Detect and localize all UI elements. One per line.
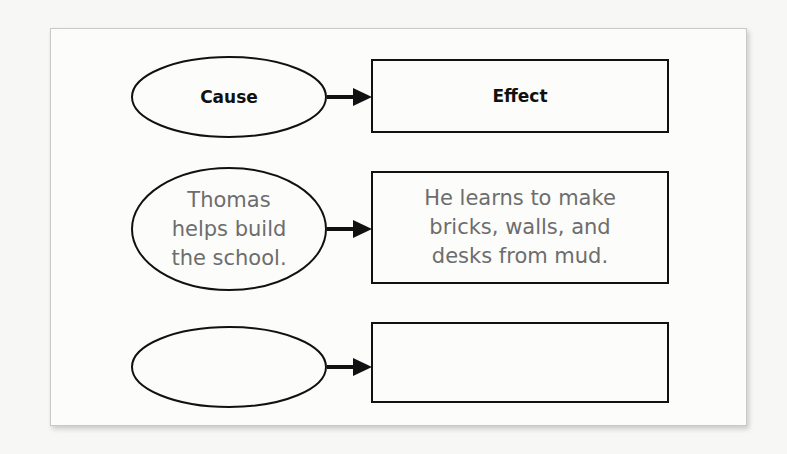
effect-header-label: Effect [373,61,667,131]
cause-text-2 [140,330,318,404]
cause-line: helps build [172,215,287,244]
effect-text-2 [373,324,667,401]
effect-line: bricks, walls, and [429,213,610,242]
cause-text-1: Thomas helps build the school. [140,170,318,288]
arrow-icon [327,358,372,376]
arrow-icon [327,88,372,106]
cause-line: the school. [171,244,286,273]
cause-line: Thomas [187,186,270,215]
effect-text-1: He learns to make bricks, walls, and des… [373,173,667,282]
cause-header-label: Cause [132,57,326,137]
arrow-icon [327,220,372,238]
effect-line: desks from mud. [432,242,608,271]
effect-line: He learns to make [424,184,616,213]
